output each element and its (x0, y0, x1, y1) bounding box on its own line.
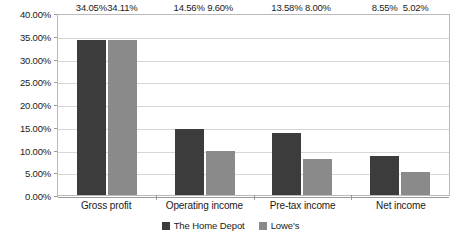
bar-value-label: 34.05% (76, 2, 107, 13)
y-tick-label: 35.00% (20, 31, 51, 42)
bar-value-label: 5.02% (403, 2, 429, 13)
bar-column: 8.55% (370, 15, 399, 195)
plot-area: 34.05%34.11%14.56%9.60%13.58%8.00%8.55%5… (57, 14, 450, 196)
bar-group: 13.58%8.00% (254, 15, 352, 195)
y-tick-label: 0.00% (25, 191, 51, 202)
y-tick-label: 15.00% (20, 122, 51, 133)
bar-value-label: 14.56% (174, 2, 205, 13)
bar[interactable]: 8.55% (370, 156, 399, 195)
y-tick-label: 10.00% (20, 145, 51, 156)
category-label: Net income (352, 200, 450, 211)
legend-entry[interactable]: Lowe's (259, 220, 300, 231)
bar-column: 13.58% (272, 15, 301, 195)
bar[interactable]: 9.60% (206, 151, 235, 195)
legend-swatch-icon (259, 222, 267, 230)
bar-chart: 40.00%35.00%30.00%25.00%20.00%15.00%10.0… (0, 0, 461, 240)
bar-column: 9.60% (206, 15, 235, 195)
y-tick-label: 20.00% (20, 100, 51, 111)
category-label: Pre-tax income (254, 200, 352, 211)
bar-value-label: 13.58% (271, 2, 302, 13)
bar-group: 8.55%5.02% (351, 15, 449, 195)
y-axis: 40.00%35.00%30.00%25.00%20.00%15.00%10.0… (0, 14, 54, 196)
bar-value-label: 8.00% (305, 2, 331, 13)
bar-pair: 8.55%5.02% (351, 15, 449, 195)
x-axis-category-labels: Gross profitOperating incomePre-tax inco… (57, 200, 450, 211)
bar-pair: 34.05%34.11% (58, 15, 156, 195)
bar-group: 14.56%9.60% (156, 15, 254, 195)
bar-column: 34.05% (77, 15, 106, 195)
bar[interactable]: 14.56% (175, 129, 204, 195)
bar-column: 34.11% (108, 15, 137, 195)
legend-label: The Home Depot (174, 220, 245, 231)
bar[interactable]: 34.11% (108, 40, 137, 195)
y-tick-label: 40.00% (20, 9, 51, 20)
y-tick-label: 25.00% (20, 77, 51, 88)
bar[interactable]: 34.05% (77, 40, 106, 195)
y-tick-label: 30.00% (20, 54, 51, 65)
bar-pair: 14.56%9.60% (156, 15, 254, 195)
bar[interactable]: 8.00% (303, 159, 332, 195)
legend-entry[interactable]: The Home Depot (162, 220, 245, 231)
bar-group: 34.05%34.11% (58, 15, 156, 195)
bar-value-label: 34.11% (107, 2, 137, 13)
category-label: Gross profit (57, 200, 155, 211)
category-label: Operating income (155, 200, 253, 211)
legend-swatch-icon (162, 222, 170, 230)
bar[interactable]: 13.58% (272, 133, 301, 195)
bar-pair: 13.58%8.00% (254, 15, 352, 195)
legend-label: Lowe's (271, 220, 300, 231)
chart-legend: The Home DepotLowe's (0, 220, 461, 231)
bar[interactable]: 5.02% (401, 172, 430, 195)
bar-value-label: 9.60% (207, 2, 233, 13)
y-tick-label: 5.00% (25, 168, 51, 179)
bar-column: 8.00% (303, 15, 332, 195)
bar-value-label: 8.55% (372, 2, 398, 13)
bar-column: 14.56% (175, 15, 204, 195)
bar-groups: 34.05%34.11%14.56%9.60%13.58%8.00%8.55%5… (58, 15, 449, 195)
bar-column: 5.02% (401, 15, 430, 195)
